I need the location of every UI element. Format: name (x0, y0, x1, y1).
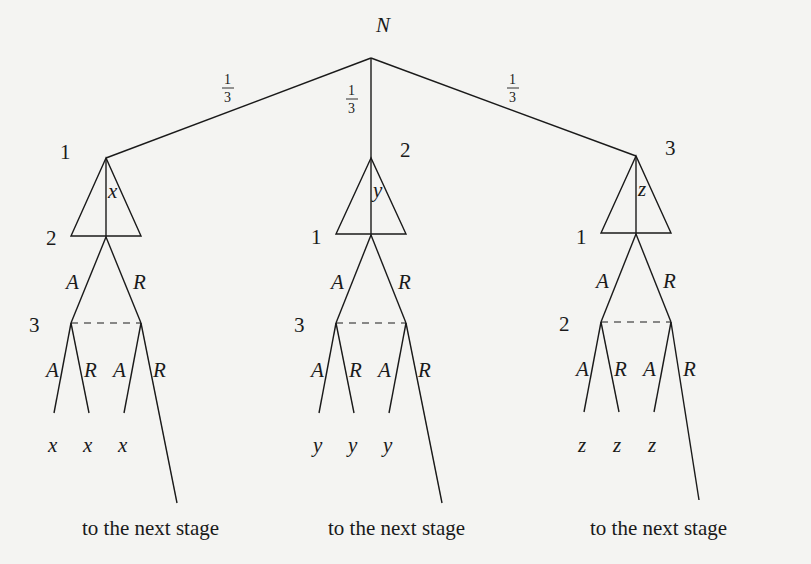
action-reject: R (348, 358, 362, 382)
edge-reject-continue (141, 323, 177, 503)
payoff-leaf: z (612, 433, 621, 457)
payoff-leaf: z (647, 433, 656, 457)
probability-left: 1 3 (222, 72, 234, 105)
player-label: 1 (60, 140, 71, 164)
root-label-nature: N (375, 13, 391, 37)
action-accept: A (574, 357, 589, 381)
svg-text:1: 1 (224, 72, 231, 87)
action-reject: R (417, 358, 431, 382)
payoff-leaf: x (117, 433, 128, 457)
probability-right: 1 3 (507, 72, 519, 105)
player-label: 3 (665, 136, 676, 160)
chance-edges (106, 58, 636, 158)
action-reject: R (662, 269, 676, 293)
payoff-leaf: y (381, 433, 393, 457)
action-accept: A (64, 270, 79, 294)
edge-reject-continue (406, 323, 442, 503)
payoff-leaf: y (311, 433, 323, 457)
next-stage-label: to the next stage (328, 516, 465, 540)
game-tree-diagram: N 1 3 1 3 1 3 1 x 2 A R 3 A (0, 0, 811, 564)
subtree-player3-proposal: 3 z 1 A R 2 A R A R z z z to the next st… (559, 136, 727, 540)
edge-reject-continue (671, 322, 699, 500)
proposal-label: x (107, 179, 118, 203)
third-player-label: 3 (294, 313, 305, 337)
edge-accept (389, 323, 406, 413)
third-player-label: 2 (559, 312, 570, 336)
responder-label: 2 (46, 226, 57, 250)
svg-text:1: 1 (509, 72, 516, 87)
edge-accept (654, 322, 671, 412)
player-label: 2 (400, 138, 411, 162)
subtree-player2-proposal: 2 y 1 A R 3 A R A R y y y to the next st… (294, 138, 465, 540)
svg-text:3: 3 (348, 101, 355, 116)
svg-text:3: 3 (509, 90, 516, 105)
action-reject: R (397, 270, 411, 294)
action-reject: R (613, 357, 627, 381)
action-reject: R (682, 357, 696, 381)
action-reject: R (83, 358, 97, 382)
payoff-leaf: x (82, 433, 93, 457)
action-reject: R (132, 270, 146, 294)
action-accept: A (44, 358, 59, 382)
third-player-label: 3 (29, 313, 40, 337)
proposal-label: y (371, 178, 383, 202)
payoff-leaf: z (577, 433, 586, 457)
payoff-leaf: y (346, 433, 358, 457)
proposal-label: z (637, 177, 646, 201)
action-accept: A (329, 270, 344, 294)
action-accept: A (376, 358, 391, 382)
responder-label: 1 (311, 225, 322, 249)
action-accept: A (111, 358, 126, 382)
subtree-player1-proposal: 1 x 2 A R 3 A R A R x x x to the next st… (29, 140, 219, 540)
action-accept: A (641, 357, 656, 381)
edge-nature-to-player1 (106, 58, 371, 158)
next-stage-label: to the next stage (82, 516, 219, 540)
svg-text:1: 1 (348, 83, 355, 98)
probability-middle: 1 3 (346, 83, 358, 116)
next-stage-label: to the next stage (590, 516, 727, 540)
payoff-leaf: x (47, 433, 58, 457)
edge-nature-to-player3 (371, 58, 636, 156)
action-accept: A (594, 269, 609, 293)
responder-label: 1 (576, 225, 587, 249)
action-accept: A (309, 358, 324, 382)
edge-accept (124, 323, 141, 413)
svg-text:3: 3 (224, 90, 231, 105)
action-reject: R (152, 358, 166, 382)
